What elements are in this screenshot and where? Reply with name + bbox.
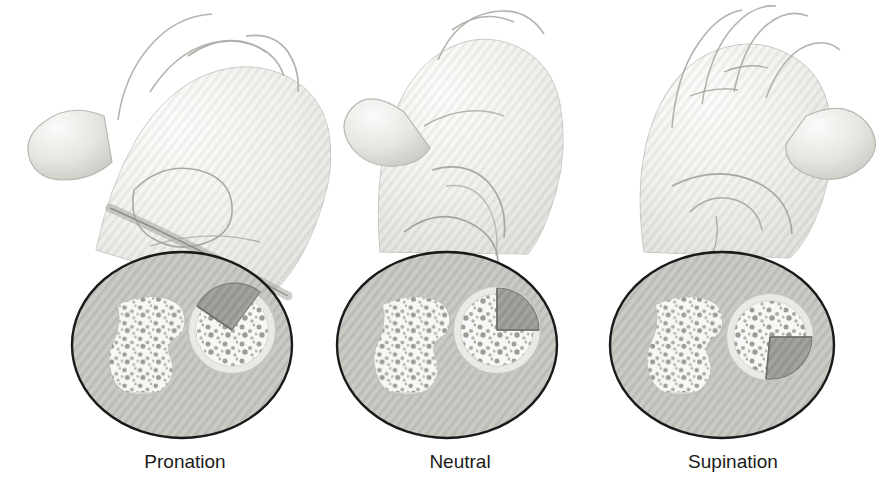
neutral-cross-section: [337, 252, 557, 438]
caption-pronation: Pronation: [144, 451, 225, 472]
caption-neutral: Neutral: [429, 451, 490, 472]
supination-radius: [726, 293, 814, 381]
forearm-rotation-figure: Pronation: [0, 0, 890, 491]
supination-cross-section: [610, 252, 834, 438]
pronation-cross-section: [72, 252, 292, 438]
neutral-radius: [453, 286, 541, 374]
caption-supination: Supination: [688, 451, 778, 472]
